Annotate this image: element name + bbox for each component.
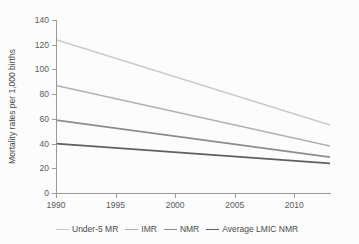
legend-swatch-icon — [56, 229, 69, 230]
legend-swatch-icon — [164, 229, 177, 230]
legend-item[interactable]: IMR — [125, 225, 157, 234]
y-tick-label: 140 — [35, 16, 49, 25]
x-tick-label: 2000 — [155, 201, 195, 210]
y-tick — [52, 168, 56, 169]
series-lines — [56, 20, 330, 194]
legend-swatch-icon — [206, 229, 219, 230]
x-tick — [235, 194, 236, 198]
y-tick-label: 20 — [40, 164, 49, 173]
y-axis-line — [56, 20, 57, 194]
y-tick — [52, 119, 56, 120]
legend-item[interactable]: NMR — [164, 225, 199, 234]
y-tick — [52, 45, 56, 46]
y-tick-label: 100 — [35, 65, 49, 74]
x-tick-label: 2010 — [274, 201, 314, 210]
y-tick-label: 40 — [40, 140, 49, 149]
y-tick — [52, 69, 56, 70]
series-line — [56, 40, 330, 125]
legend-item[interactable]: Under-5 MR — [56, 225, 118, 234]
x-tick-label: 2005 — [215, 201, 255, 210]
chart-figure: Mortality rates per 1,000 births 0204060… — [0, 0, 359, 244]
y-tick-label: 60 — [40, 115, 49, 124]
series-line — [56, 144, 330, 164]
x-tick-label: 1990 — [36, 201, 76, 210]
legend-label: NMR — [180, 225, 199, 234]
y-tick — [52, 144, 56, 145]
plot-area — [56, 20, 330, 193]
legend-swatch-icon — [125, 229, 138, 230]
x-tick — [56, 194, 57, 198]
x-tick — [116, 194, 117, 198]
legend-label: IMR — [141, 225, 157, 234]
y-tick-label: 0 — [44, 189, 49, 198]
series-line — [56, 120, 330, 157]
legend-label: Under-5 MR — [72, 225, 118, 234]
x-tick-label: 1995 — [96, 201, 136, 210]
legend-label: Average LMIC NMR — [222, 225, 298, 234]
y-tick — [52, 20, 56, 21]
x-tick — [175, 194, 176, 198]
x-axis-line — [56, 193, 331, 194]
series-line — [56, 85, 330, 146]
y-axis-title-container: Mortality rates per 1,000 births — [6, 20, 18, 193]
legend-item[interactable]: Average LMIC NMR — [206, 225, 298, 234]
top-caption — [0, 0, 359, 6]
y-axis-title: Mortality rates per 1,000 births — [8, 20, 17, 193]
y-tick-label: 80 — [40, 90, 49, 99]
x-tick — [294, 194, 295, 198]
y-tick-label: 120 — [35, 41, 49, 50]
y-tick — [52, 94, 56, 95]
chart-legend: Under-5 MRIMRNMRAverage LMIC NMR — [56, 222, 330, 236]
